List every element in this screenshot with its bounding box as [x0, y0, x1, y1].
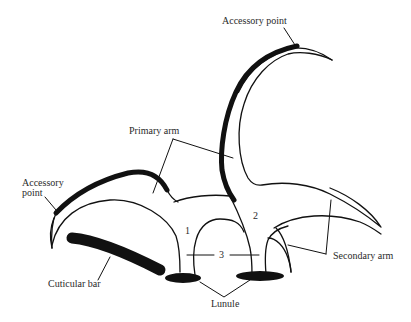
lunule-left: [165, 273, 201, 283]
label-cuticular-bar: Cuticular bar: [48, 279, 100, 289]
label-lunule: Lunule: [211, 299, 239, 309]
label-number-1: 1: [185, 226, 190, 236]
stalk-2: [230, 196, 252, 275]
lunules: [165, 271, 284, 283]
accessory-point-left-thick: [56, 172, 167, 213]
accessory-point-top-thick: [222, 46, 297, 200]
right-claw: [222, 46, 381, 275]
label-number-3: 3: [219, 250, 224, 260]
label-secondary-arm: Secondary arm: [333, 251, 393, 261]
cuticular-bar: [72, 238, 160, 270]
label-primary-arm: Primary arm: [129, 126, 179, 136]
label-accessory-point-left: Accessory point: [22, 178, 64, 198]
label-number-2: 2: [253, 211, 258, 221]
base: [194, 216, 381, 275]
label-accessory-point-left-line2: point: [22, 188, 64, 198]
claw-diagram: [0, 0, 411, 322]
lunule-right: [236, 271, 284, 281]
primary-arm-right-inner: [239, 53, 381, 227]
label-accessory-point-top: Accessory point: [222, 16, 287, 26]
